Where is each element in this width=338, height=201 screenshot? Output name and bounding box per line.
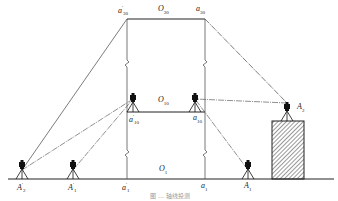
theodolite-tripod-icon [189, 93, 201, 112]
theodolite-tripod-icon [127, 93, 139, 112]
label-a30: a30 [196, 5, 205, 15]
theodolite-tripod-icon [281, 102, 293, 121]
sight-line-A2-a10 [195, 99, 287, 103]
label-a30-prime: a′30 [118, 5, 128, 16]
label-A2-prime: A′2 [17, 182, 25, 193]
sight-line-A1p-a10p [73, 99, 133, 170]
building-hatched-icon [272, 121, 304, 179]
label-A2: A2 [297, 103, 304, 113]
right-axis-line [203, 19, 207, 179]
theodolite-tripod-icon [16, 160, 28, 179]
label-a10: a10 [193, 114, 202, 124]
sight-line-A2p-a10p [22, 99, 133, 170]
sight-line-A2p-a30p [22, 19, 127, 170]
axis-projection-diagram [0, 0, 338, 201]
label-O1: O1 [159, 165, 167, 175]
figure-caption: 图 … 轴线投测 [90, 191, 250, 200]
label-a10-prime: a′10 [129, 114, 139, 125]
label-O30: O30 [158, 5, 169, 15]
sight-line-right-a30 [205, 19, 287, 103]
theodolite-tripod-icon [242, 160, 254, 179]
left-axis-line [125, 19, 129, 179]
label-O10: O10 [158, 96, 169, 106]
sight-line-A1-a10 [195, 99, 248, 170]
label-A1-prime: A′1 [68, 182, 76, 193]
theodolite-tripod-icon [67, 160, 79, 179]
